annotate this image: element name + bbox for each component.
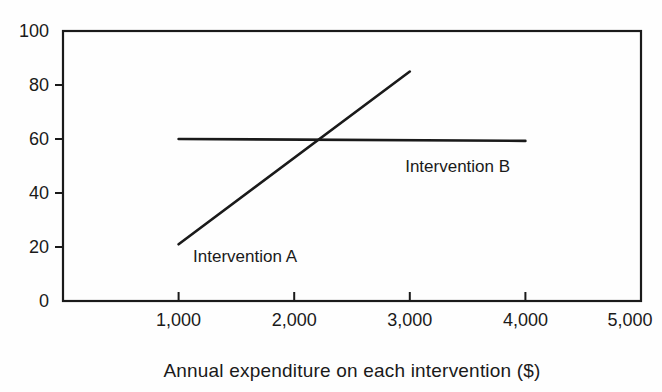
- x-axis-tick-label: 2,000: [272, 310, 317, 330]
- y-axis-tick-label: 100: [19, 21, 49, 41]
- series-line-intervention-a: [179, 72, 410, 245]
- x-axis-tick-label: 4,000: [503, 310, 548, 330]
- x-axis-tick-label: 5,000: [607, 310, 652, 330]
- y-axis-tick-label: 20: [29, 237, 49, 257]
- chart: 0204060801001,0002,0003,0004,0005,000Int…: [0, 0, 662, 392]
- y-axis-tick-label: 60: [29, 129, 49, 149]
- series-line-intervention-b: [179, 139, 526, 141]
- y-axis-tick-label: 0: [39, 291, 49, 311]
- series-label-intervention-a: Intervention A: [193, 247, 298, 266]
- plot-frame: [63, 31, 641, 301]
- x-axis-tick-label: 3,000: [387, 310, 432, 330]
- y-axis-tick-label: 40: [29, 183, 49, 203]
- series-label-intervention-b: Intervention B: [405, 157, 510, 176]
- x-axis-title: Annual expenditure on each intervention …: [63, 360, 641, 382]
- y-axis-tick-label: 80: [29, 75, 49, 95]
- x-axis-tick-label: 1,000: [156, 310, 201, 330]
- chart-canvas: 0204060801001,0002,0003,0004,0005,000Int…: [0, 0, 662, 392]
